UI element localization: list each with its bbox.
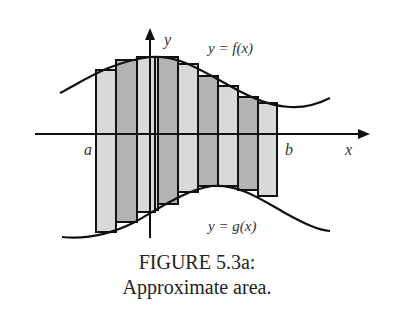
- approximating-rectangle: [218, 86, 238, 186]
- y-axis-label: y: [162, 31, 172, 49]
- approximating-rectangle: [178, 64, 198, 192]
- approximating-rectangle: [158, 57, 178, 204]
- f-curve-label: y = f(x): [206, 40, 253, 57]
- area-between-curves-figure: y x a b y = f(x) y = g(x) FIGURE 5.3a: A…: [0, 0, 394, 316]
- figure-caption-title: FIGURE 5.3a:: [0, 250, 394, 274]
- a-label: a: [84, 141, 92, 158]
- x-axis-arrow-icon: [358, 129, 370, 139]
- b-label: b: [285, 141, 293, 158]
- g-curve-label: y = g(x): [206, 218, 256, 235]
- approximating-rectangle: [116, 60, 137, 222]
- x-axis-label: x: [344, 141, 352, 158]
- approximating-rectangle: [96, 70, 116, 232]
- approximating-rectangles: [96, 57, 277, 232]
- approximating-rectangle: [198, 76, 218, 186]
- approximating-rectangle: [258, 103, 277, 196]
- approximating-rectangle: [238, 97, 258, 190]
- y-axis-arrow-icon: [145, 28, 155, 40]
- figure-caption-text: Approximate area.: [0, 275, 394, 299]
